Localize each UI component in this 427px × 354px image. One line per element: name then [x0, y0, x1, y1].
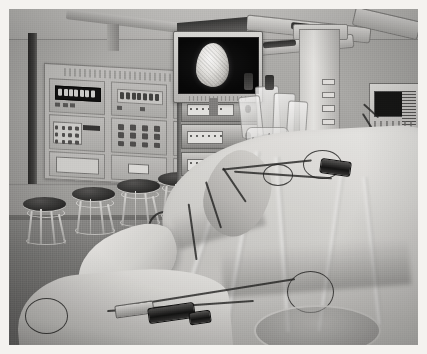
indicator-leds	[117, 106, 150, 112]
stool[interactable]	[72, 187, 115, 234]
panel-cell-button-grid[interactable]	[111, 118, 168, 155]
photo-frame	[9, 9, 418, 345]
stool[interactable]	[23, 197, 66, 244]
panel-cell-lcd-1[interactable]	[49, 78, 106, 115]
stool-foot-ring	[75, 226, 115, 235]
control-buttons[interactable]	[118, 124, 159, 148]
stool-foot-ring	[26, 237, 66, 246]
door-frame-edge	[28, 33, 37, 184]
panel-cell-keypad[interactable]	[49, 114, 106, 151]
monitor-mount-stalk	[209, 98, 218, 115]
unit-indicator-row	[190, 108, 226, 110]
indicator-leds	[55, 103, 88, 109]
small-readout	[128, 163, 149, 174]
cable-loop	[25, 298, 68, 334]
ceiling-arm-joint	[107, 24, 119, 51]
gas-outlet-port[interactable]	[322, 92, 334, 98]
iv-hanger-hook	[265, 75, 274, 90]
cable-loop	[263, 164, 294, 186]
panel-cell-lcd-2[interactable]	[111, 81, 168, 118]
iv-hanger-hook	[244, 73, 253, 90]
keypad-buttons[interactable]	[54, 125, 78, 144]
blank-plate	[56, 156, 98, 175]
photograph-root	[0, 0, 427, 354]
gas-outlet-port[interactable]	[322, 79, 334, 85]
lcd-display	[116, 88, 163, 105]
gas-outlet-port[interactable]	[322, 119, 334, 125]
endoscopic-image-texture	[196, 43, 229, 87]
endoscopic-monitor[interactable]	[173, 31, 263, 104]
panel-cell-blank-1[interactable]	[49, 151, 106, 179]
lcd-display	[54, 85, 101, 102]
unit-indicator-row	[190, 135, 226, 137]
unit-faceplate	[187, 131, 223, 143]
vitals-screen	[374, 91, 403, 117]
readout-strip	[82, 125, 99, 130]
endoscopic-image	[196, 43, 229, 87]
gas-outlet-port[interactable]	[322, 105, 334, 111]
